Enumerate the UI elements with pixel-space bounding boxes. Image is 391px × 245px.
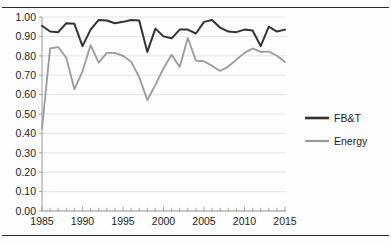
y-axis [39, 17, 42, 211]
y-axis-tick-label: 0.80 [16, 50, 37, 62]
x-axis-tick-label: 2005 [192, 215, 216, 227]
x-axis-tick-label: 1995 [111, 215, 135, 227]
bottom-horizontal-rule [2, 235, 389, 236]
x-axis-tick-labels: 1985199019952000200520102015 [30, 215, 297, 227]
x-axis-tickmarks [42, 207, 285, 212]
x-axis-tick-label: 1985 [30, 215, 54, 227]
data-series-line [42, 20, 285, 52]
y-axis-tick-label: 1.00 [16, 11, 37, 23]
x-axis-tick-label: 2000 [152, 215, 176, 227]
x-axis-tick-label: 2010 [233, 215, 257, 227]
y-axis-tick-label: 0.30 [16, 147, 37, 159]
y-axis-tick-label: 0.40 [16, 127, 37, 139]
legend-label: Energy [334, 135, 368, 147]
figure-container: 1.000.900.800.700.600.500.400.300.200.10… [0, 0, 391, 245]
x-axis-tick-label: 2015 [273, 215, 297, 227]
y-axis-tick-label: 0.90 [16, 30, 37, 42]
gridlines-group [42, 17, 286, 211]
y-axis-tick-label: 0.50 [16, 108, 37, 120]
chart-legend: FB&TEnergy [305, 112, 368, 147]
x-axis-tick-label: 1990 [71, 215, 95, 227]
top-horizontal-rule [2, 7, 389, 8]
y-axis-tick-label: 0.70 [16, 69, 37, 81]
y-axis-tick-label: 0.20 [16, 166, 37, 178]
chart-plot-area: 1.000.900.800.700.600.500.400.300.200.10… [0, 10, 391, 232]
line-chart: 1.000.900.800.700.600.500.400.300.200.10… [0, 10, 391, 232]
legend-label: FB&T [334, 112, 361, 124]
y-axis-tick-labels: 1.000.900.800.700.600.500.400.300.200.10… [16, 11, 37, 217]
y-axis-tick-label: 0.10 [16, 185, 37, 197]
y-axis-tick-label: 0.60 [16, 88, 37, 100]
data-series-line [42, 38, 285, 129]
